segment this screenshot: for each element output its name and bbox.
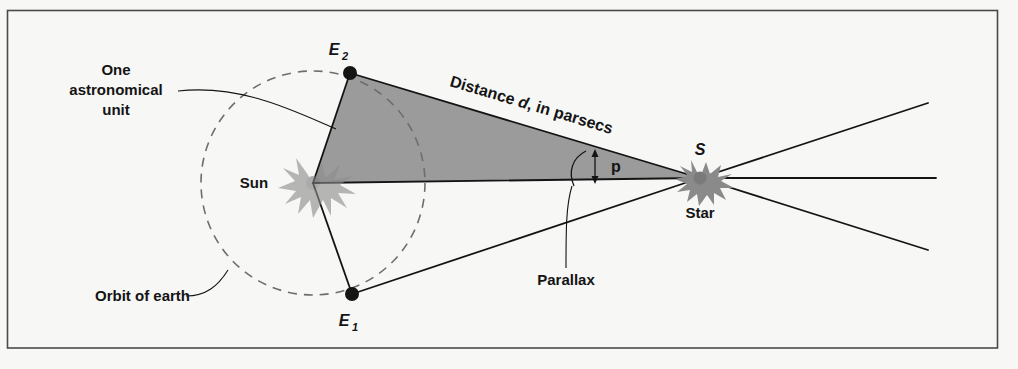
e2-label-letter: E [329, 41, 341, 58]
parallax-label: Parallax [537, 271, 595, 288]
parallax-diagram-canvas: One astronomical unit Orbit of earth Sun… [0, 0, 1018, 369]
orbit-of-earth-label: Orbit of earth [95, 287, 190, 304]
figure-background [0, 0, 1018, 369]
star-word-label: Star [685, 204, 714, 221]
angle-p-label: p [611, 158, 621, 175]
one-au-label-line3: unit [102, 101, 130, 118]
sun-label: Sun [240, 174, 268, 191]
one-au-label-line1: One [101, 61, 130, 78]
earth-position-e1-dot [345, 287, 359, 301]
one-au-label-line2: astronomical [69, 81, 162, 98]
parallax-figure: One astronomical unit Orbit of earth Sun… [0, 0, 1018, 369]
e1-label-subscript: 1 [352, 321, 358, 333]
e2-label-subscript: 2 [341, 50, 348, 62]
e1-label-letter: E [339, 312, 351, 329]
star-symbol-label: S [695, 141, 706, 158]
earth-position-e2-dot [343, 66, 357, 80]
